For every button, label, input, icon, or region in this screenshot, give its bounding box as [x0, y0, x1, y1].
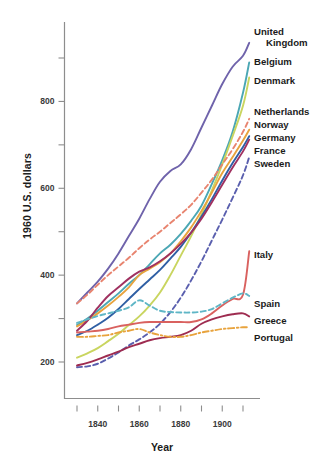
series-label-germany: Germany — [254, 132, 296, 143]
x-tick-label: 1900 — [202, 419, 242, 429]
y-tick-label: 200 — [0, 357, 55, 367]
x-tick-marks — [77, 406, 243, 412]
x-tick-label: 1840 — [78, 419, 118, 429]
y-tick-label: 400 — [0, 270, 55, 280]
series-label-italy: Italy — [254, 249, 273, 260]
series-label-norway: Norway — [254, 119, 289, 130]
series-curve-portugal — [77, 327, 249, 337]
y-tick-label: 800 — [0, 96, 55, 106]
line-chart-canvas — [0, 0, 329, 466]
series-label-spain: Spain — [254, 298, 280, 309]
axis-group — [65, 22, 261, 399]
series-label-greece: Greece — [254, 315, 287, 326]
x-tick-label: 1860 — [119, 419, 159, 429]
series-label-france: France — [254, 145, 285, 156]
y-axis-title: 1960 U.S. dollars — [21, 131, 33, 261]
series-curve-spain — [77, 293, 249, 323]
series-label-united-kingdom-cont: Kingdom — [254, 37, 308, 48]
chart-root: 200400600800 1840186018801900 1960 U.S. … — [0, 0, 329, 466]
series-curves — [77, 43, 249, 367]
y-tick-marks — [59, 58, 65, 362]
series-label-denmark: Denmark — [254, 75, 295, 86]
x-axis-title: Year — [64, 441, 260, 453]
axis-lines — [65, 22, 261, 399]
series-label-portugal: Portugal — [254, 332, 293, 343]
series-label-sweden: Sweden — [254, 158, 290, 169]
x-tick-label: 1880 — [161, 419, 201, 429]
series-curve-belgium — [77, 62, 249, 325]
series-label-united-kingdom: United — [254, 26, 284, 37]
series-label-netherlands: Netherlands — [254, 106, 309, 117]
series-label-belgium: Belgium — [254, 56, 292, 67]
series-curve-united-kingdom — [77, 43, 249, 304]
